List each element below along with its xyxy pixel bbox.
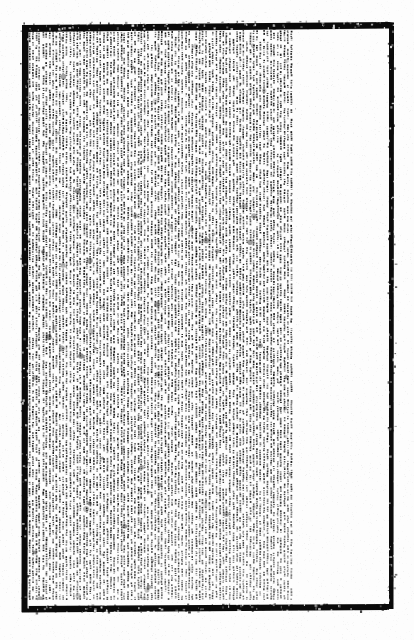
page-title: [0, 0, 1, 1]
document-body-text: [0, 0, 1, 1]
page-number: [0, 0, 1, 1]
scanned-page: [0, 0, 414, 640]
document-text-block: [28, 30, 296, 600]
document-text-texture: [28, 30, 296, 600]
